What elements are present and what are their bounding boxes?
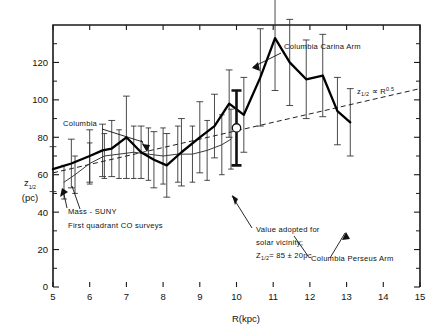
x-ticklabel-14: 14 — [378, 291, 389, 302]
annotation-columbia-carina-arm: Columbia Carina Arm — [284, 42, 361, 51]
x-ticklabel-15: 15 — [415, 291, 426, 302]
x-ticklabel-12: 12 — [305, 291, 316, 302]
annotation-mass-suny-line2: First quadrant CO surveys — [68, 221, 163, 230]
x-ticklabel-10: 10 — [231, 291, 242, 302]
error-bars-columbia — [50, 0, 354, 197]
x-ticklabel-7: 7 — [124, 291, 129, 302]
y-axis-label-units: (pc) — [22, 192, 38, 203]
y-axis-label: z1/2 (pc) — [22, 177, 38, 203]
powerlaw-relation: ∝ R — [369, 87, 386, 96]
x-ticklabel-5: 5 — [50, 291, 55, 302]
x-axis-label: R(kpc) — [232, 313, 260, 324]
annotation-solar-vicinity-line2: solar vicinity; — [256, 238, 303, 247]
leader-mass-suny — [72, 186, 80, 209]
annotation-solar-vicinity-line1: Value adopted for — [256, 225, 320, 234]
annotation-texts: Columbia Mass - SUNY First quadrant CO s… — [63, 42, 394, 263]
x-ticklabel-11: 11 — [268, 291, 278, 302]
x-ticklabel-9: 9 — [197, 291, 202, 302]
y-ticklabel-120: 120 — [32, 57, 48, 68]
y-ticklabel-0: 0 — [43, 281, 48, 292]
solar-z-subscript: 1/2 — [261, 255, 269, 261]
solar-vicinity-marker — [232, 124, 240, 132]
y-ticklabel-80: 80 — [37, 132, 48, 143]
y-ticklabel-20: 20 — [37, 244, 48, 255]
y-ticklabel-100: 100 — [32, 94, 48, 105]
y-ticklabel-40: 40 — [37, 207, 48, 218]
powerlaw-exponent: 0.5 — [386, 86, 394, 92]
annotation-columbia: Columbia — [63, 119, 98, 128]
x-ticklabel-6: 6 — [87, 291, 92, 302]
solar-z-value: = 85 ± 20pc — [269, 251, 312, 260]
x-ticklabel-8: 8 — [160, 291, 165, 302]
series-columbia-line — [53, 38, 350, 169]
powerlaw-z-subscript: 1/2 — [361, 91, 369, 97]
x-axis-ticklabels: 56789101112131415 — [50, 291, 425, 302]
svg-text:z1/2: z1/2 — [24, 177, 36, 190]
annotation-solar-vicinity-line3: Z1/2= 85 ± 20pc — [256, 251, 312, 261]
solar-vicinity-point — [232, 91, 242, 166]
figure-root: 56789101112131415 020406080100120 R(kpc)… — [0, 0, 435, 331]
x-ticklabel-13: 13 — [341, 291, 352, 302]
y-axis-ticklabels: 020406080100120 — [32, 57, 48, 293]
annotation-mass-suny-line1: Mass - SUNY — [68, 207, 117, 216]
y-axis-label-sub: 1/2 — [29, 184, 37, 190]
annotation-columbia-perseus-arm: Columbia Perseus Arm — [311, 254, 394, 263]
chart-canvas: 56789101112131415 020406080100120 R(kpc)… — [0, 0, 435, 331]
y-ticklabel-60: 60 — [37, 169, 48, 180]
